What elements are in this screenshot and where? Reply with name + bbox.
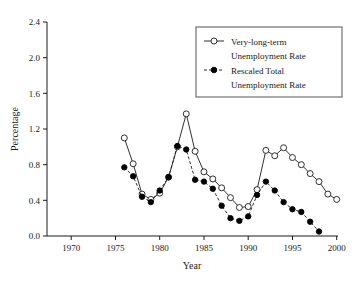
- x-ticklabel-4: 1990: [239, 243, 258, 253]
- data-point: [245, 204, 251, 210]
- y-axis-ticks: [43, 22, 47, 236]
- data-point: [298, 162, 304, 168]
- data-point: [316, 179, 322, 185]
- data-point: [334, 196, 340, 202]
- data-point: [263, 179, 268, 184]
- data-point: [228, 215, 233, 220]
- y-ticklabel-3: 1.2: [29, 124, 40, 134]
- chart-legend: Very-long-term Unemployment Rate Rescale…: [196, 27, 342, 97]
- data-point: [289, 155, 295, 161]
- legend-label-1-line1: Very-long-term: [231, 37, 286, 47]
- x-axis-tick-labels: 1970 1975 1980 1985 1990 1995 2000: [62, 243, 346, 253]
- data-point: [166, 174, 171, 179]
- y-ticklabel-0: 0.0: [29, 231, 41, 241]
- data-point: [272, 188, 277, 193]
- x-ticklabel-3: 1985: [195, 243, 214, 253]
- data-point: [325, 191, 331, 197]
- data-point: [281, 145, 287, 151]
- data-point: [139, 194, 144, 199]
- x-ticklabel-5: 1995: [284, 243, 303, 253]
- y-ticklabel-1: 0.4: [29, 196, 41, 206]
- data-point: [130, 161, 136, 167]
- data-point: [272, 153, 278, 159]
- data-point: [210, 186, 215, 191]
- data-point: [157, 188, 162, 193]
- series-line: [124, 114, 336, 208]
- data-point: [201, 179, 206, 184]
- series-layer: [121, 111, 339, 234]
- y-axis-title: Percentage: [9, 107, 20, 151]
- data-point: [246, 214, 251, 219]
- legend-marker-filled-circle-icon: [211, 67, 217, 73]
- data-point: [237, 218, 242, 223]
- data-point: [307, 171, 313, 177]
- data-point: [130, 174, 135, 179]
- data-point: [254, 192, 259, 197]
- legend-label-2-line2: Unemployment Rate: [231, 80, 306, 90]
- data-point: [263, 147, 269, 153]
- data-point: [281, 199, 286, 204]
- legend-label-1-line2: Unemployment Rate: [231, 51, 306, 61]
- chart-svg: 0.0 0.4 0.8 1.2 1.6 2.0 2.4 1970 1975 19…: [0, 0, 363, 285]
- data-point: [228, 195, 234, 201]
- x-axis-ticks: [71, 236, 337, 240]
- data-point: [175, 143, 180, 148]
- x-axis-title: Year: [183, 260, 202, 271]
- data-point: [219, 185, 225, 191]
- data-point: [210, 176, 216, 182]
- data-point: [121, 135, 127, 141]
- data-point: [184, 147, 189, 152]
- data-point: [183, 111, 189, 117]
- chart-figure: 0.0 0.4 0.8 1.2 1.6 2.0 2.4 1970 1975 19…: [0, 0, 363, 285]
- data-point: [307, 219, 312, 224]
- x-ticklabel-2: 1980: [151, 243, 170, 253]
- data-point: [192, 177, 197, 182]
- y-ticklabel-2: 0.8: [29, 160, 41, 170]
- legend-marker-open-circle-icon: [211, 38, 217, 44]
- series-very-long-term: [121, 111, 339, 211]
- x-ticklabel-1: 1975: [107, 243, 126, 253]
- data-point: [122, 165, 127, 170]
- data-point: [192, 148, 198, 154]
- data-point: [219, 203, 224, 208]
- data-point: [290, 207, 295, 212]
- data-point: [236, 204, 242, 210]
- data-point: [316, 229, 321, 234]
- y-ticklabel-4: 1.6: [29, 89, 41, 99]
- data-point: [299, 209, 304, 214]
- legend-label-2-line1: Rescaled Total: [231, 66, 284, 76]
- x-ticklabel-0: 1970: [62, 243, 81, 253]
- y-axis-tick-labels: 0.0 0.4 0.8 1.2 1.6 2.0 2.4: [29, 17, 41, 241]
- data-point: [148, 199, 153, 204]
- x-ticklabel-6: 2000: [328, 243, 347, 253]
- y-ticklabel-5: 2.0: [29, 53, 41, 63]
- data-point: [201, 169, 207, 175]
- y-ticklabel-6: 2.4: [29, 17, 41, 27]
